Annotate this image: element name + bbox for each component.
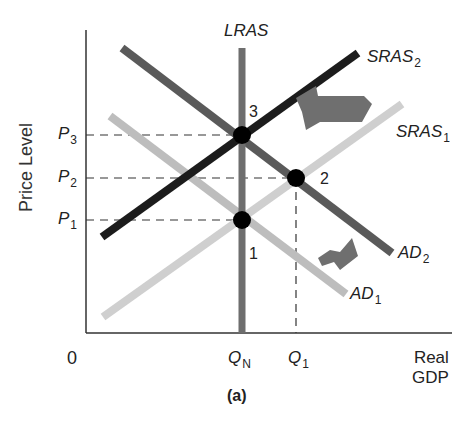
q1-tick-label: Q1 bbox=[288, 349, 309, 366]
ad1-label-sub: 1 bbox=[375, 293, 382, 307]
p2-sub: 2 bbox=[70, 176, 77, 190]
lras-label: LRAS bbox=[224, 22, 268, 39]
origin-label: 0 bbox=[67, 349, 77, 367]
point-1-label: 1 bbox=[249, 246, 258, 262]
p1-text: P bbox=[58, 209, 69, 228]
p1-sub: 1 bbox=[70, 218, 77, 232]
x-axis-title-line2: GDP bbox=[412, 369, 449, 386]
point-2-label: 2 bbox=[320, 171, 329, 187]
ad2-label-sub: 2 bbox=[423, 252, 430, 266]
equilibrium-point-1 bbox=[233, 211, 251, 229]
sras2-label-text: SRAS bbox=[367, 47, 413, 66]
x-axis-title: Real GDP bbox=[412, 349, 449, 386]
p3-text: P bbox=[58, 124, 69, 143]
sras1-label: SRAS1 bbox=[396, 123, 450, 140]
ad2-label-text: AD bbox=[398, 243, 422, 262]
p2-tick-label: P2 bbox=[58, 168, 77, 185]
y-axis-title: Price Level bbox=[16, 123, 37, 212]
p3-sub: 3 bbox=[70, 133, 77, 147]
ad1-label-text: AD bbox=[350, 284, 374, 303]
sras1-label-text: SRAS bbox=[396, 122, 442, 141]
sras2-label-sub: 2 bbox=[414, 56, 421, 70]
x-axis-title-line1: Real bbox=[412, 349, 449, 366]
p3-tick-label: P3 bbox=[58, 125, 77, 142]
qn-text: Q bbox=[228, 348, 241, 367]
p1-tick-label: P1 bbox=[58, 210, 77, 227]
ad1-label: AD1 bbox=[350, 285, 381, 302]
ad2-label: AD2 bbox=[398, 244, 429, 261]
equilibrium-point-3 bbox=[233, 126, 251, 144]
qn-sub: N bbox=[242, 357, 251, 371]
qn-tick-label: QN bbox=[228, 349, 251, 366]
sras1-label-sub: 1 bbox=[443, 131, 450, 145]
point-3-label: 3 bbox=[249, 104, 258, 120]
figure-caption: (a) bbox=[227, 388, 247, 404]
sras2-label: SRAS2 bbox=[367, 48, 421, 65]
ad-shift-right-arrow-icon bbox=[318, 238, 358, 270]
sras-shift-left-arrow-icon bbox=[296, 86, 372, 130]
q1-text: Q bbox=[288, 348, 301, 367]
q1-sub: 1 bbox=[302, 357, 309, 371]
p2-text: P bbox=[58, 167, 69, 186]
equilibrium-point-2 bbox=[287, 169, 305, 187]
